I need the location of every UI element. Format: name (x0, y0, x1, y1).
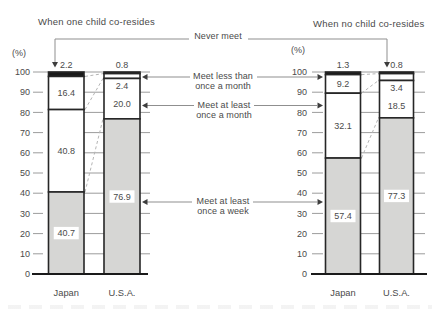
legend-line: Meet at least (197, 196, 250, 206)
arrow-left-icon (142, 199, 148, 205)
dashed-connector (85, 74, 103, 77)
axis-unit-label: (%) (291, 45, 305, 55)
bar-category-label: U.S.A. (109, 288, 136, 298)
legend-line: Meet less than (193, 71, 253, 81)
bar-segment-value-label: 40.7 (57, 228, 75, 238)
legend-line: Meet at least (196, 100, 252, 110)
axis-tick-label: 10 (297, 249, 307, 259)
axis-tick-label: 40 (20, 188, 30, 198)
right-group-title: When no child co-resides (313, 18, 424, 29)
bar-category-label: Japan (54, 288, 79, 298)
axis-tick-label: 60 (20, 148, 30, 158)
bar-segment-value-label: 9.2 (337, 79, 350, 89)
bar-top-value-label: 0.8 (390, 60, 403, 70)
axis-tick-label: 20 (297, 229, 307, 239)
axis-tick-label: 60 (297, 148, 307, 158)
legend-meet-less-label: Meet less than once a month (193, 71, 253, 91)
legend-meet-month-label: Meet at least once a month (196, 100, 252, 120)
arrow-left-icon (142, 103, 148, 109)
bar-segment-value-label: 76.9 (113, 192, 131, 202)
bar-segment-value-label: 77.3 (388, 191, 406, 201)
legend-line: once a month (193, 81, 253, 91)
bar-category-label: Japan (330, 288, 355, 298)
axis-tick-label: 90 (297, 87, 307, 97)
chart-graphics: 0102030405060708090100(%)2.216.440.840.7… (0, 0, 438, 311)
bar-segment-value-label: 2.4 (116, 81, 129, 91)
axis-tick-label: 0 (25, 269, 30, 279)
axis-tick-label: 20 (20, 229, 30, 239)
arrow-down-icon (384, 62, 390, 68)
axis-tick-label: 0 (302, 269, 307, 279)
bar-segment-value-label: 18.5 (388, 101, 406, 111)
bar-segment-value-label: 20.0 (113, 99, 131, 109)
bar-top-value-label: 0.8 (116, 60, 129, 70)
axis-tick-label: 80 (297, 108, 307, 118)
bar-segment-value-label: 57.4 (334, 211, 352, 221)
axis-tick-label: 30 (297, 209, 307, 219)
dashed-connector (362, 74, 379, 75)
bar-segment-value-label: 32.1 (334, 121, 352, 131)
legend-line: once a week (197, 206, 250, 216)
axis-tick-label: 10 (20, 249, 30, 259)
legend-line: once a month (196, 110, 252, 120)
bar-segment-value-label: 3.4 (390, 83, 403, 93)
axis-tick-label: 100 (292, 67, 307, 77)
axis-tick-label: 70 (20, 128, 30, 138)
axis-tick-label: 100 (15, 67, 30, 77)
bar-top-value-label: 2.2 (60, 60, 73, 70)
bar-segment (380, 74, 414, 81)
cropped-caption-remnant (8, 305, 432, 309)
axis-tick-label: 70 (297, 128, 307, 138)
axis-tick-label: 50 (20, 168, 30, 178)
axis-tick-label: 30 (20, 209, 30, 219)
dashed-connector (362, 80, 379, 93)
axis-unit-label: (%) (12, 48, 26, 58)
arrow-down-icon (52, 62, 58, 68)
legend-meet-week-label: Meet at least once a week (197, 196, 250, 216)
dashed-connector (362, 118, 379, 158)
bar-segment-value-label: 40.8 (57, 146, 75, 156)
legend-never-meet-label: Never meet (194, 31, 242, 41)
left-group-title: When one child co-resides (38, 16, 155, 27)
axis-tick-label: 80 (20, 108, 30, 118)
bar-category-label: U.S.A. (383, 288, 410, 298)
dashed-connector (85, 78, 103, 109)
arrow-right-icon (318, 199, 324, 205)
arrow-left-icon (142, 74, 148, 80)
arrow-right-icon (318, 103, 324, 109)
arrow-right-icon (318, 74, 324, 80)
axis-tick-label: 90 (20, 87, 30, 97)
axis-tick-label: 40 (297, 188, 307, 198)
bar-segment-value-label: 16.4 (57, 88, 75, 98)
dashed-connector (85, 119, 103, 192)
bar-top-value-label: 1.3 (337, 60, 350, 70)
axis-tick-label: 50 (297, 168, 307, 178)
figure-meeting-frequency-chart: 0102030405060708090100(%)2.216.440.840.7… (0, 0, 438, 311)
